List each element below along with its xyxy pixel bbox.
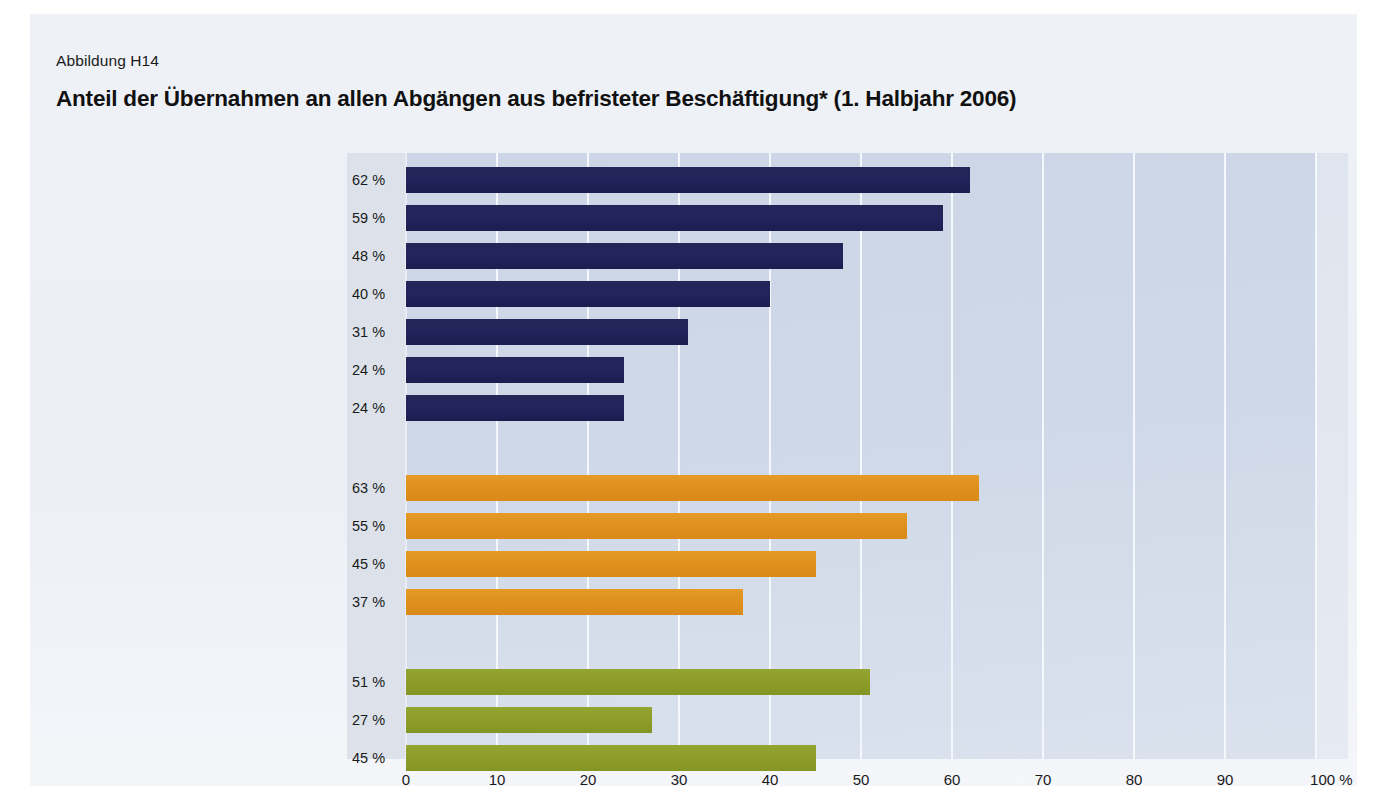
gridline-100 xyxy=(1315,153,1317,759)
bar xyxy=(406,589,743,615)
figure-number: Abbildung H14 xyxy=(56,52,159,70)
bar xyxy=(406,281,770,307)
bar-value-label: 51 % xyxy=(352,669,400,695)
bar-value-label: 45 % xyxy=(352,551,400,577)
bar xyxy=(406,513,907,539)
x-tick-50: 50 xyxy=(853,771,870,788)
gridline-80 xyxy=(1133,153,1135,759)
x-tick-70: 70 xyxy=(1035,771,1052,788)
x-tick-100: 100 % xyxy=(1310,771,1353,788)
x-tick-60: 60 xyxy=(944,771,961,788)
bar xyxy=(406,551,816,577)
bar xyxy=(406,395,624,421)
x-tick-40: 40 xyxy=(762,771,779,788)
bar-value-label: 63 % xyxy=(352,475,400,501)
x-tick-90: 90 xyxy=(1217,771,1234,788)
bar-value-label: 40 % xyxy=(352,281,400,307)
bar xyxy=(406,669,870,695)
figure-title: Anteil der Übernahmen an allen Abgängen … xyxy=(56,86,1016,112)
bar xyxy=(406,205,943,231)
bar xyxy=(406,357,624,383)
x-tick-30: 30 xyxy=(671,771,688,788)
bar-value-label: 59 % xyxy=(352,205,400,231)
x-tick-80: 80 xyxy=(1126,771,1143,788)
bar-value-label: 31 % xyxy=(352,319,400,345)
bar-value-label: 62 % xyxy=(352,167,400,193)
gridline-60 xyxy=(951,153,953,759)
bar-value-label: 24 % xyxy=(352,395,400,421)
x-tick-10: 10 xyxy=(489,771,506,788)
bar-value-label: 27 % xyxy=(352,707,400,733)
bar-value-label: 55 % xyxy=(352,513,400,539)
bar xyxy=(406,243,843,269)
bar xyxy=(406,475,979,501)
bar-chart: Distributive Dienstleistungen62 %Produzi… xyxy=(30,153,1357,786)
gridline-70 xyxy=(1042,153,1044,759)
bar-value-label: 37 % xyxy=(352,589,400,615)
x-axis: 0102030405060708090100 % xyxy=(30,759,1357,796)
x-tick-0: 0 xyxy=(402,771,410,788)
gridline-90 xyxy=(1224,153,1226,759)
x-tick-20: 20 xyxy=(580,771,597,788)
plot-area-overflow xyxy=(1315,153,1348,759)
bar-value-label: 24 % xyxy=(352,357,400,383)
bar xyxy=(406,167,970,193)
bar-value-label: 48 % xyxy=(352,243,400,269)
bar xyxy=(406,707,652,733)
bar xyxy=(406,319,688,345)
figure-panel: Abbildung H14 Anteil der Übernahmen an a… xyxy=(30,14,1357,786)
